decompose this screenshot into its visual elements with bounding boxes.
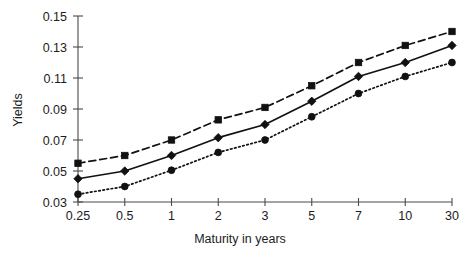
- marker-circle: [215, 149, 222, 156]
- marker-square: [215, 117, 221, 123]
- x-tick-label: 10: [398, 209, 412, 223]
- chart-canvas: 0.030.050.070.090.110.130.15 0.250.51235…: [0, 0, 471, 257]
- marker-circle: [449, 59, 456, 66]
- y-axis-title: Yields: [11, 93, 25, 127]
- marker-square: [262, 104, 268, 110]
- marker-circle: [402, 73, 409, 80]
- x-tick-label: 7: [355, 209, 362, 223]
- x-axis-title: Maturity in years: [194, 232, 286, 246]
- y-tick-label: 0.09: [43, 103, 67, 117]
- x-tick-label: 0.25: [66, 209, 90, 223]
- marker-circle: [75, 191, 82, 198]
- marker-square: [168, 137, 174, 143]
- y-tick-label: 0.15: [43, 10, 67, 24]
- y-tick-label: 0.07: [43, 134, 67, 148]
- marker-circle: [168, 167, 175, 174]
- marker-square: [449, 28, 455, 34]
- marker-circle: [355, 90, 362, 97]
- marker-square: [309, 83, 315, 89]
- yield-curve-chart: 0.030.050.070.090.110.130.15 0.250.51235…: [0, 0, 471, 257]
- marker-square: [122, 152, 128, 158]
- x-tick-label: 2: [215, 209, 222, 223]
- y-tick-label: 0.11: [44, 72, 67, 86]
- y-tick-label: 0.13: [43, 41, 67, 55]
- marker-circle: [121, 183, 128, 190]
- y-tick-label: 0.05: [43, 165, 67, 179]
- marker-square: [75, 160, 81, 166]
- x-tick-label: 3: [262, 209, 269, 223]
- x-tick-label: 5: [308, 209, 315, 223]
- x-tick-label: 30: [445, 209, 459, 223]
- marker-circle: [262, 137, 269, 144]
- y-tick-label: 0.03: [43, 196, 67, 210]
- marker-circle: [308, 113, 315, 120]
- x-tick-label: 1: [168, 209, 175, 223]
- x-axis-tick-labels: 0.250.5123571030: [66, 209, 459, 223]
- x-tick-label: 0.5: [116, 209, 133, 223]
- marker-square: [402, 42, 408, 48]
- marker-square: [355, 59, 361, 65]
